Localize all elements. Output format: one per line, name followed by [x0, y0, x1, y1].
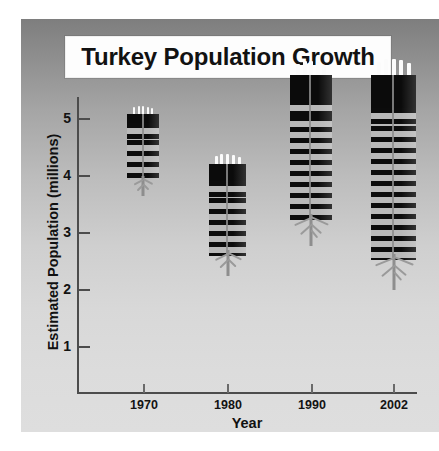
- bar-1990: [290, 59, 332, 432]
- feather-fluff-1980: [211, 250, 245, 266]
- feather-tip-fringe-2002: [377, 59, 411, 75]
- y-axis-label: Estimated Population (millions): [45, 92, 61, 392]
- feather-fluff-1970: [130, 176, 156, 188]
- bar-2002: [371, 59, 416, 432]
- y-tick-1: [79, 346, 90, 348]
- feather-shaft-1970: [142, 114, 144, 180]
- chart-figure: Source: USGS Biological Resources. Turke…: [0, 0, 439, 451]
- bar-1970: [127, 59, 159, 432]
- y-tick-5: [79, 118, 90, 120]
- y-tick-3: [79, 232, 90, 234]
- feather-tip-fringe-1970: [133, 106, 153, 114]
- y-tick-2: [79, 289, 90, 291]
- feather-tip-fringe-1990: [296, 61, 326, 75]
- plot-area: 1 2 3 4 5 1970 1980 1990 2002 Estimated …: [21, 19, 439, 432]
- feather-tip-fringe-1980: [215, 154, 241, 164]
- feather-fluff-1990: [290, 214, 332, 234]
- chart-panel: Turkey Population Growth 1 2 3 4 5 1970 …: [21, 19, 439, 432]
- y-tick-4: [79, 175, 90, 177]
- bar-1980: [209, 59, 246, 432]
- feather-shaft-1980: [226, 164, 228, 256]
- feather-fluff-2002: [371, 254, 417, 276]
- feather-shaft-1990: [309, 75, 311, 220]
- y-axis-line: [77, 97, 79, 394]
- feather-shaft-2002: [392, 75, 394, 260]
